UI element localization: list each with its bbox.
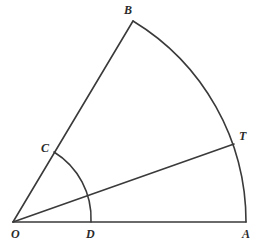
- vertex-label-b: B: [123, 3, 132, 17]
- segments-group: [13, 21, 246, 222]
- geometry-figure: O A B C D T: [0, 0, 264, 250]
- vertex-label-d: D: [85, 227, 95, 241]
- minor-arc-cd: [54, 152, 91, 222]
- vertex-label-c: C: [41, 141, 50, 155]
- arcs-group: [54, 21, 246, 222]
- vertex-labels-group: O A B C D T: [11, 3, 250, 241]
- segment-ob: [13, 21, 133, 222]
- segment-ot: [13, 144, 234, 222]
- geometry-canvas: O A B C D T: [0, 0, 264, 250]
- vertex-label-a: A: [241, 227, 250, 241]
- vertex-label-o: O: [11, 227, 20, 241]
- major-arc-ba: [133, 21, 246, 222]
- vertex-label-t: T: [239, 129, 247, 143]
